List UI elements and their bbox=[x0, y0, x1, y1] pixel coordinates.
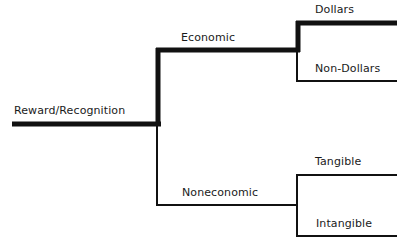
noneconomic-label: Noneconomic bbox=[182, 186, 258, 199]
non-dollars-label: Non-Dollars bbox=[315, 62, 380, 75]
root-label: Reward/Recognition bbox=[14, 104, 125, 117]
economic-label: Economic bbox=[181, 31, 235, 44]
tangible-label: Tangible bbox=[315, 155, 361, 168]
dollars-label: Dollars bbox=[315, 3, 354, 16]
intangible-label: Intangible bbox=[316, 217, 372, 230]
